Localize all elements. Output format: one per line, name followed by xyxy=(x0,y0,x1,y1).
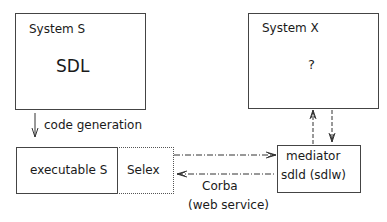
code-generation-arrow-icon xyxy=(32,113,38,137)
mediator-to-system-x-arrow-icon xyxy=(310,110,316,144)
arrows-layer xyxy=(0,0,387,222)
selex-to-mediator-arrow-icon xyxy=(174,152,276,158)
system-x-to-mediator-arrow-icon xyxy=(329,110,335,142)
mediator-to-selex-arrow-icon xyxy=(177,171,276,177)
